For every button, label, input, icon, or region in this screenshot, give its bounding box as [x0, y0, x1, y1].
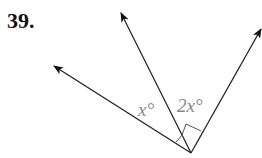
- middle-ray: [121, 13, 191, 153]
- right-ray: [191, 29, 261, 153]
- angle-label-x: x°: [137, 99, 154, 120]
- angle-label-2x: 2x°: [177, 95, 203, 116]
- left-ray: [54, 66, 191, 153]
- angle-diagram: x° 2x°: [0, 0, 262, 158]
- right-angle-mark: [182, 124, 201, 135]
